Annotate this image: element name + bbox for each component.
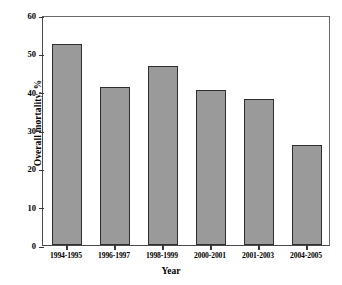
x-tick-label: 2001-2003 [234,251,282,260]
y-tick-mark [39,247,44,248]
x-tick-mark [162,245,163,250]
bar [244,99,274,245]
x-tick-mark [306,245,307,250]
bar [148,66,178,245]
x-tick-mark [114,245,115,250]
x-tick-label: 1998-1999 [138,251,186,260]
y-tick-mark [39,132,44,133]
y-tick-mark [39,208,44,209]
y-tick-label: 40 [28,88,37,99]
plot-inner: 0102030405060 [43,17,329,245]
bar-chart-figure: Overall mortality, % 0102030405060 1994-… [0,0,342,285]
x-tick-label: 2004-2005 [282,251,330,260]
bar [292,145,322,245]
bar [196,90,226,245]
y-tick-label: 30 [28,126,37,137]
x-tick-label: 1996-1997 [90,251,138,260]
y-tick-mark [39,170,44,171]
bar [100,87,130,245]
y-tick-mark [39,55,44,56]
x-tick-label: 1994-1995 [42,251,90,260]
y-tick-label: 50 [28,49,37,60]
y-tick-mark [39,93,44,94]
bars-layer [43,17,329,245]
x-tick-mark [210,245,211,250]
y-tick-label: 60 [28,11,37,22]
x-tick-label: 2000-2001 [186,251,234,260]
y-tick-label: 10 [28,203,37,214]
bar [52,44,82,245]
x-tick-mark [258,245,259,250]
y-tick-mark [39,17,44,18]
plot-area: 0102030405060 [42,16,330,246]
x-tick-mark [66,245,67,250]
y-tick-label: 0 [32,241,36,252]
x-axis-title: Year [0,266,342,276]
y-tick-label: 20 [28,164,37,175]
